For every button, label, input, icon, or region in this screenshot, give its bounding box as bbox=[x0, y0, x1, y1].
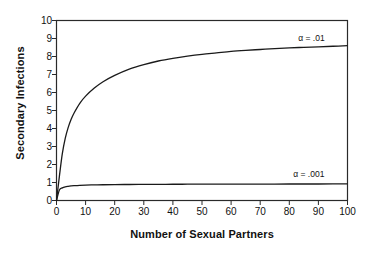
series-line-alpha-001 bbox=[57, 184, 348, 201]
series-annotation-alpha-01: α = .01 bbox=[298, 33, 324, 43]
y-axis-ticks bbox=[52, 21, 57, 201]
x-axis-ticks bbox=[57, 201, 348, 206]
series-annotation-alpha-001: α = .001 bbox=[293, 169, 324, 179]
chart-figure: Secondary Infections Number of Sexual Pa… bbox=[0, 0, 378, 254]
